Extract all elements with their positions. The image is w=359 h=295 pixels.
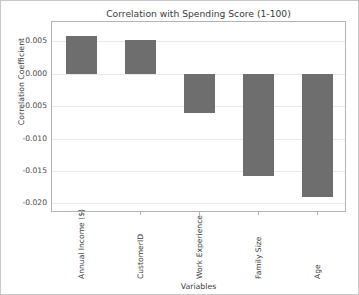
plot-inner (52, 22, 345, 211)
x-tick-mark (317, 212, 318, 215)
gridline (52, 139, 345, 140)
bar[interactable] (243, 74, 274, 176)
y-tick-label: -0.020 (23, 198, 47, 207)
bar[interactable] (184, 74, 215, 113)
gridline (52, 171, 345, 172)
chart-title: Correlation with Spending Score (1-100) (51, 8, 346, 19)
x-tick-label: Age (313, 264, 322, 279)
y-axis-ticks: Correlation Coefficient 0.0050.000-0.005… (11, 21, 47, 212)
bar[interactable] (125, 40, 156, 74)
gridline (52, 203, 345, 204)
x-axis-label: Variables (51, 282, 346, 291)
y-tick-label: 0.005 (25, 36, 47, 45)
y-tick-label: -0.015 (23, 165, 47, 174)
y-tick-label: 0.000 (25, 68, 47, 77)
x-tick-mark (258, 212, 259, 215)
y-tick-label: -0.010 (23, 133, 47, 142)
x-tick-label: CustomerID (136, 234, 145, 279)
bar[interactable] (302, 74, 333, 197)
bar[interactable] (66, 36, 97, 74)
y-axis-label: Correlation Coefficient (17, 22, 26, 142)
x-tick-mark (140, 212, 141, 215)
x-tick-label: Work Experience (195, 215, 204, 279)
plot-area (51, 21, 346, 212)
chart-figure: Correlation with Spending Score (1-100) … (0, 0, 359, 295)
x-tick-label: Family Size (254, 237, 263, 279)
y-tick-label: -0.005 (23, 101, 47, 110)
x-tick-label: Annual Income ($) (77, 209, 86, 279)
